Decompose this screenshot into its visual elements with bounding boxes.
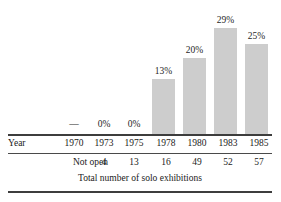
totals-cell-1978: 16 bbox=[152, 155, 180, 170]
year-cell-1985: 1985 bbox=[245, 136, 273, 151]
value-label-1980: 20% bbox=[180, 45, 209, 55]
value-label-1978: 13% bbox=[149, 66, 178, 76]
value-label-1970: — bbox=[60, 119, 88, 129]
bar-1978 bbox=[152, 79, 175, 134]
solo-exhibitions-figure: — 0% 0% 13% 20% 29% 25% Year 1970 1973 1… bbox=[0, 0, 281, 202]
value-label-1985: 25% bbox=[242, 31, 271, 41]
data-table: Year 1970 1973 1975 1978 1980 1983 1985 … bbox=[0, 134, 281, 202]
year-cell-1980: 1980 bbox=[183, 136, 211, 151]
table-rule-middle bbox=[8, 153, 272, 154]
year-header: Year bbox=[8, 136, 44, 151]
table-caption: Total number of solo exhibitions bbox=[8, 172, 272, 184]
value-label-1983: 29% bbox=[211, 15, 240, 25]
year-cell-1983: 1983 bbox=[214, 136, 242, 151]
bar-chart-plot-area: — 0% 0% 13% 20% 29% 25% bbox=[0, 0, 281, 134]
totals-cell-1983: 52 bbox=[214, 155, 242, 170]
totals-cell-1985: 57 bbox=[245, 155, 273, 170]
totals-cell-1973: 4 bbox=[90, 155, 118, 170]
table-rule-bottom bbox=[8, 191, 272, 193]
table-row-year: Year 1970 1973 1975 1978 1980 1983 1985 bbox=[8, 136, 272, 151]
year-cell-1978: 1978 bbox=[152, 136, 180, 151]
table-row-totals: Not open 4 13 16 49 52 57 bbox=[8, 155, 272, 170]
bar-1983 bbox=[214, 28, 237, 134]
totals-cell-1975: 13 bbox=[120, 155, 148, 170]
year-cell-1973: 1973 bbox=[90, 136, 118, 151]
year-cell-1975: 1975 bbox=[120, 136, 148, 151]
year-cell-1970: 1970 bbox=[60, 136, 88, 151]
value-label-1973: 0% bbox=[90, 119, 118, 129]
bar-1980 bbox=[183, 58, 206, 134]
totals-cell-1980: 49 bbox=[183, 155, 211, 170]
bar-1985 bbox=[245, 44, 268, 134]
value-label-1975: 0% bbox=[120, 119, 148, 129]
